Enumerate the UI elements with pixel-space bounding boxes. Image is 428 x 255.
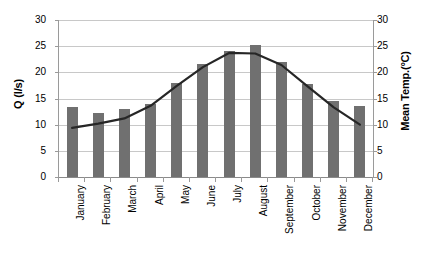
temperature-polyline [72, 53, 360, 128]
x-label-slot: November [320, 183, 346, 253]
temperature-line-series [59, 20, 373, 177]
y-tick-label-left: 25 [24, 41, 46, 51]
y-tick-label-right: 25 [377, 41, 399, 51]
x-label-slot: May [163, 183, 189, 253]
y-tick-label-right: 15 [377, 94, 399, 104]
y-tick-label-right: 5 [377, 146, 399, 156]
x-tick-mark [267, 177, 268, 182]
x-label-slot: June [189, 183, 215, 253]
x-tick-mark [58, 177, 59, 182]
x-tick-mark [215, 177, 216, 182]
y-axis-right-tick-labels: 302520151050 [377, 0, 401, 255]
x-axis-label-december: December [363, 185, 374, 231]
y-tick-label-left: 5 [24, 146, 46, 156]
y-tick-label-right: 30 [377, 15, 399, 25]
x-label-slot: January [58, 183, 84, 253]
x-label-slot: September [267, 183, 293, 253]
x-tick-mark [163, 177, 164, 182]
x-label-slot: March [110, 183, 136, 253]
y-tick-label-left: 0 [24, 172, 46, 182]
x-tick-mark [346, 177, 347, 182]
x-tick-mark [84, 177, 85, 182]
y-tick-mark-right [373, 46, 377, 47]
y-tick-label-left: 15 [24, 94, 46, 104]
y-tick-label-right: 0 [377, 172, 399, 182]
x-label-slot: July [215, 183, 241, 253]
y-tick-label-right: 20 [377, 67, 399, 77]
y-tick-mark-right [373, 177, 377, 178]
y-tick-label-left: 30 [24, 15, 46, 25]
y-tick-mark-right [373, 125, 377, 126]
x-label-slot: August [241, 183, 267, 253]
y-tick-mark-right [373, 72, 377, 73]
x-tick-mark [294, 177, 295, 182]
y-tick-mark-right [373, 99, 377, 100]
x-tick-mark [320, 177, 321, 182]
y-tick-label-right: 10 [377, 120, 399, 130]
y-tick-label-left: 10 [24, 120, 46, 130]
x-label-slot: October [294, 183, 320, 253]
x-tick-mark [110, 177, 111, 182]
x-tick-mark [372, 177, 373, 182]
x-tick-mark [189, 177, 190, 182]
plot-area [58, 20, 374, 177]
y-tick-label-left: 20 [24, 67, 46, 77]
x-label-slot: December [346, 183, 372, 253]
x-tick-mark [241, 177, 242, 182]
chart-container: Q (l/s) Mean Temp.(°C) 302520151050 3025… [0, 0, 428, 255]
y-axis-left-tick-labels: 302520151050 [22, 0, 46, 255]
y-tick-mark-right [373, 151, 377, 152]
x-axis-labels: JanuaryFebruaryMarchAprilMayJuneJulyAugu… [58, 183, 372, 253]
x-label-slot: April [137, 183, 163, 253]
y-tick-mark-right [373, 20, 377, 21]
x-label-slot: February [84, 183, 110, 253]
x-tick-mark [137, 177, 138, 182]
